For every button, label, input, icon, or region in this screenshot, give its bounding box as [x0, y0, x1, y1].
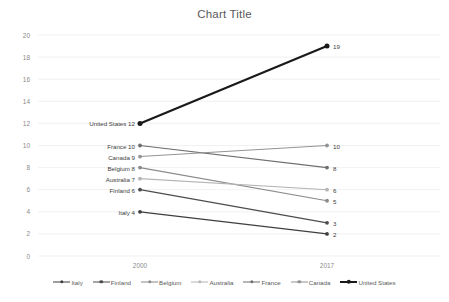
data-point-canada-2000: [138, 155, 142, 159]
legend-swatch-icon: [141, 278, 158, 286]
data-label-left-canada: Canada 9: [108, 153, 135, 160]
data-point-australia-2000: [138, 177, 142, 181]
data-label-left-finland: Finland 6: [110, 186, 135, 193]
data-label-left-united-states: United States 12: [89, 120, 135, 127]
legend-label: Canada: [309, 279, 331, 286]
legend-swatch-icon: [53, 278, 70, 286]
y-tick-label: 16: [8, 76, 30, 83]
data-label-right-australia: 6: [333, 186, 336, 193]
legend-swatch-icon: [340, 278, 357, 286]
data-point-belgium-2000: [138, 166, 142, 170]
data-point-italy-2017: [325, 232, 329, 236]
y-tick-label: 20: [8, 32, 30, 39]
legend-item-australia[interactable]: Australia: [191, 278, 233, 286]
series-line-finland: [140, 190, 327, 223]
data-label-right-united-states: 19: [333, 43, 340, 50]
plot-area: [0, 0, 449, 302]
data-label-left-italy: Italy 4: [118, 208, 135, 215]
legend-swatch-icon: [291, 278, 308, 286]
legend-item-canada[interactable]: Canada: [291, 278, 331, 286]
legend-label: France: [261, 279, 280, 286]
legend-label: Belgium: [159, 279, 181, 286]
y-tick-label: 12: [8, 120, 30, 127]
data-label-right-finland: 3: [333, 219, 336, 226]
data-label-left-australia: Australia 7: [106, 175, 135, 182]
data-point-united-states-2017: [325, 44, 330, 49]
series-line-france: [140, 146, 327, 168]
series-line-canada: [140, 146, 327, 157]
data-point-australia-2017: [325, 188, 329, 192]
legend-label: Australia: [209, 279, 233, 286]
legend-item-france[interactable]: France: [243, 278, 280, 286]
data-point-belgium-2017: [325, 199, 329, 203]
series-lines: [140, 46, 327, 234]
legend-swatch-icon: [93, 278, 110, 286]
data-label-right-italy: 2: [333, 230, 336, 237]
y-tick-label: 10: [8, 142, 30, 149]
legend-swatch-icon: [191, 278, 208, 286]
chart-legend: ItalyFinlandBelgiumAustraliaFranceCanada…: [0, 278, 449, 286]
series-markers: [138, 44, 330, 236]
data-point-canada-2017: [325, 144, 329, 148]
data-label-right-belgium: 5: [333, 197, 336, 204]
legend-item-italy[interactable]: Italy: [53, 278, 82, 286]
y-tick-label: 18: [8, 54, 30, 61]
y-tick-label: 8: [8, 164, 30, 171]
line-chart: Chart Title 02468101214161820 20002017 I…: [0, 0, 449, 302]
data-point-france-2017: [325, 166, 329, 170]
data-point-france-2000: [138, 144, 142, 148]
data-point-united-states-2000: [138, 121, 143, 126]
legend-swatch-icon: [243, 278, 260, 286]
x-tick-label: 2000: [120, 262, 160, 269]
legend-label: Finland: [111, 279, 131, 286]
legend-item-belgium[interactable]: Belgium: [141, 278, 181, 286]
x-tick-label: 2017: [307, 262, 347, 269]
series-line-united-states: [140, 46, 327, 123]
data-point-finland-2017: [325, 221, 329, 225]
data-label-left-france: France 10: [107, 142, 135, 149]
legend-label: Italy: [71, 279, 82, 286]
legend-item-united-states[interactable]: United States: [340, 278, 395, 286]
legend-item-finland[interactable]: Finland: [93, 278, 131, 286]
y-tick-label: 4: [8, 208, 30, 215]
series-line-australia: [140, 179, 327, 190]
data-label-left-belgium: Belgium 8: [107, 164, 135, 171]
series-line-italy: [140, 212, 327, 234]
data-point-italy-2000: [138, 210, 142, 214]
y-tick-label: 2: [8, 230, 30, 237]
y-tick-label: 6: [8, 186, 30, 193]
data-label-right-canada: 10: [333, 142, 340, 149]
legend-label: United States: [358, 279, 395, 286]
y-tick-label: 0: [8, 253, 30, 260]
y-tick-label: 14: [8, 98, 30, 105]
data-point-finland-2000: [138, 188, 142, 192]
data-label-right-france: 8: [333, 164, 336, 171]
